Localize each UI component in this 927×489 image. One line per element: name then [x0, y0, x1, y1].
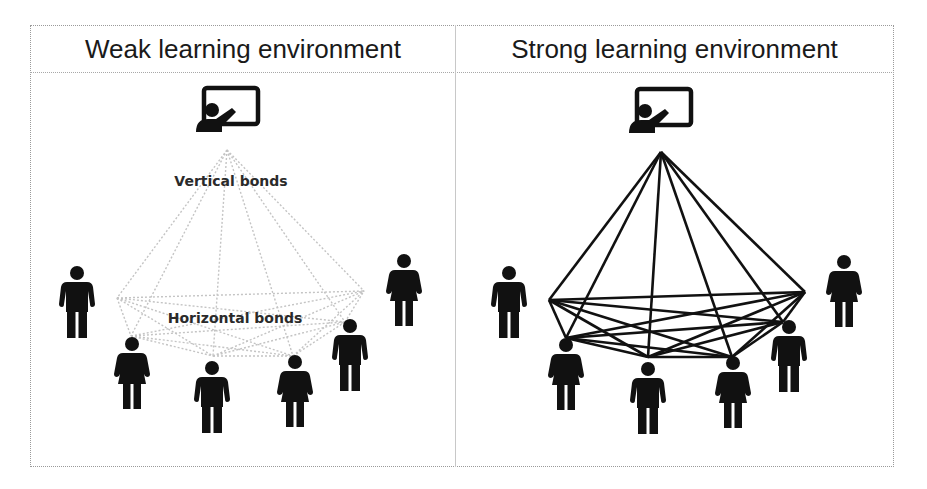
- weak-student-woman-icon: [386, 254, 422, 326]
- weak-student-woman-icon: [277, 355, 313, 427]
- strong-student-man-icon: [491, 266, 527, 338]
- strong-student-woman-icon: [548, 338, 584, 410]
- weak-student-man-icon: [194, 361, 230, 433]
- strong-teacher-icon: [629, 89, 691, 133]
- strong-student-woman-icon: [715, 356, 751, 428]
- strong-student-man-icon: [771, 320, 807, 392]
- weak-teacher-icon: [196, 88, 258, 132]
- weak-student-man-icon: [59, 266, 95, 338]
- strong-student-woman-icon: [826, 255, 862, 327]
- strong-student-man-icon: [630, 362, 666, 434]
- horizontal-bonds-label: Horizontal bonds: [168, 310, 303, 326]
- vertical-bonds-label: Vertical bonds: [174, 173, 287, 189]
- strong-network: [549, 152, 805, 357]
- weak-student-woman-icon: [114, 337, 150, 409]
- weak-student-man-icon: [332, 319, 368, 391]
